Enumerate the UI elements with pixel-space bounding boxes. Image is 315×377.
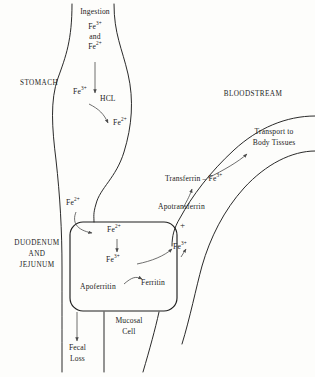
label-apoferritin: Apoferritin [80, 283, 116, 292]
label-transferrin-complex: Transferrin – Fe3+ [165, 175, 222, 184]
label-stomach-ferrous: Fe2+ [113, 119, 127, 128]
cell-oxidized-iron-charge: 3+ [114, 253, 120, 259]
label-transport-line2: Body Tissues [236, 139, 312, 148]
lumen-iron-charge: 2+ [74, 196, 80, 202]
transferrin-complex-text: Transferrin – Fe [165, 174, 217, 183]
label-conjunction-and: and [70, 33, 120, 42]
cell-entry-iron-symbol: Fe [107, 225, 115, 234]
label-transport-line1: Transport to [236, 128, 312, 137]
region-label-jejunum: JEJUNUM [2, 261, 72, 269]
label-fecal-loss-line1: Fecal [55, 344, 100, 353]
label-ingested-ferrous: Fe2+ [70, 43, 120, 52]
region-label-bloodstream: BLOODSTREAM [208, 90, 298, 98]
label-ingestion: Ingestion [65, 8, 125, 17]
label-lumen-iron: Fe2+ [66, 199, 80, 208]
label-exported-iron: Fe3+ [173, 243, 187, 252]
cell-oxidized-iron-symbol: Fe [106, 255, 114, 264]
label-fecal-loss-line2: Loss [55, 355, 100, 364]
label-hcl: HCL [100, 95, 116, 104]
exported-iron-symbol: Fe [173, 242, 181, 251]
exported-iron-charge: 3+ [181, 240, 187, 246]
region-label-duodenum: DUODENUM [2, 239, 72, 247]
label-ferritin: Ferritin [141, 279, 165, 288]
label-cell-entry-iron: Fe2+ [107, 226, 121, 235]
region-label-and: AND [2, 250, 72, 258]
ingested-ferric-symbol: Fe [88, 22, 96, 31]
ingested-ferric-charge: 3+ [96, 20, 102, 26]
arrow-hcl-reduction [89, 104, 108, 123]
label-plus-sign: + [180, 220, 185, 230]
mucosal-cell-box [70, 222, 177, 311]
label-mucosal-cell-line2: Cell [101, 328, 157, 337]
arrow-iron-export [137, 249, 172, 264]
cell-entry-iron-charge: 2+ [115, 223, 121, 229]
region-label-stomach: STOMACH [8, 79, 70, 87]
label-mucosal-cell-line1: Mucosal [101, 317, 157, 326]
transferrin-complex-charge: 3+ [217, 172, 223, 178]
stomach-ferrous-charge: 2+ [121, 116, 127, 122]
stomach-ferric-charge: 3+ [81, 85, 87, 91]
label-stomach-ferric: Fe3+ [73, 88, 87, 97]
label-ingested-ferric: Fe3+ [70, 23, 120, 32]
ingested-ferrous-charge: 2+ [96, 40, 102, 46]
stomach-ferric-symbol: Fe [73, 87, 81, 96]
anatomy-outlines [0, 0, 315, 377]
label-apotransferrin: Apotransferrin [158, 203, 205, 212]
stomach-left-wall [53, 4, 73, 372]
label-cell-oxidized-iron: Fe3+ [106, 256, 120, 265]
lumen-iron-symbol: Fe [66, 198, 74, 207]
stomach-ferrous-symbol: Fe [113, 118, 121, 127]
iron-absorption-diagram: STOMACH BLOODSTREAM DUODENUM AND JEJUNUM… [0, 0, 315, 377]
ingested-ferrous-symbol: Fe [88, 42, 96, 51]
arrow-ferritin-formation [124, 277, 142, 284]
